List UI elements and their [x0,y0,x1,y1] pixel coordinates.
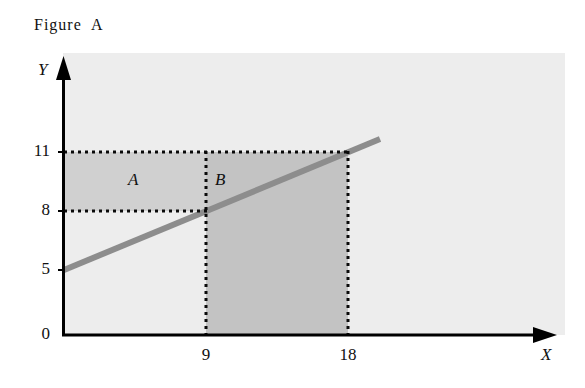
x-tick-label-18: 18 [328,345,368,365]
figure-container: Figure A Y X 11 8 5 0 9 18 A B [0,0,585,388]
x-tick-label-9: 9 [186,345,226,365]
x-axis-label: X [541,345,551,365]
region-label-a: A [128,170,138,190]
figure-canvas [0,0,585,388]
region-label-b: B [215,170,225,190]
y-tick-label-8: 8 [12,200,50,220]
y-tick-label-5: 5 [12,259,50,279]
y-axis-label: Y [38,60,47,80]
y-tick-label-11: 11 [12,141,50,161]
y-tick-label-0: 0 [12,324,50,344]
figure-title: Figure A [34,16,103,34]
